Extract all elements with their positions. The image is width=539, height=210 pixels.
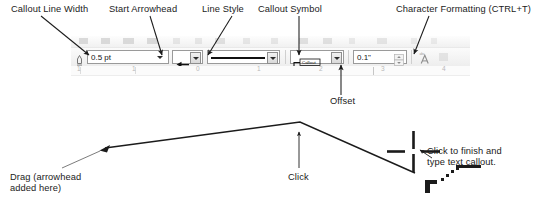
ruler-tick — [373, 67, 374, 76]
label-offset: Offset — [330, 96, 355, 107]
callout-leader-line — [105, 122, 415, 173]
callout-properties-bar: 0.5 pt — [71, 47, 470, 68]
line-style-combo[interactable] — [207, 50, 280, 64]
label-click-to-finish: Click to finish and type text callout. — [427, 146, 502, 167]
toolbar-ghost-icon — [299, 38, 308, 44]
callout-line-width-value: 0.5 pt — [91, 52, 111, 64]
callout-symbol-combo[interactable]: Callout — [290, 50, 344, 64]
ruler-label: 3 — [381, 66, 385, 72]
toolbar-ghost-icon — [271, 38, 278, 44]
toolbar-separator — [348, 50, 349, 64]
label-character-formatting: Character Formatting (CTRL+T) — [396, 4, 531, 15]
toolbar-ghost-icon — [349, 38, 355, 44]
ruler-label: 1 — [257, 66, 261, 72]
label-start-arrowhead: Start Arrowhead — [109, 4, 177, 15]
toolbar-ghost-icon — [173, 38, 180, 44]
spinner-icon[interactable] — [394, 52, 404, 64]
left-arrowhead-icon — [176, 54, 189, 61]
toolbar-ghost-icon — [377, 38, 387, 44]
toolbar-separator — [285, 50, 286, 64]
pen-width-icon[interactable] — [76, 52, 83, 63]
toolbar-ghost-icon — [123, 38, 134, 44]
label-click: Click — [288, 172, 309, 183]
horizontal-ruler[interactable]: 1 1 0 1 2 3 4 — [71, 66, 470, 76]
toolbar-ghost-icon — [215, 38, 225, 44]
start-arrowhead-dropdown[interactable] — [190, 52, 201, 64]
callout-toolbar: 0.5 pt — [71, 36, 470, 75]
ruler-label: 1 — [77, 66, 81, 72]
callout-symbol-icon: Callout — [293, 53, 331, 62]
chevron-down-icon — [334, 57, 340, 60]
svg-text:Callout: Callout — [302, 60, 316, 65]
offset-field[interactable]: 0.1" — [353, 50, 407, 64]
chevron-down-icon[interactable] — [157, 56, 163, 59]
ruler-label: 2 — [319, 66, 323, 72]
toolbar-ghost-icon — [147, 38, 158, 44]
solid-line-icon — [211, 57, 265, 59]
toolbar-ghost-icon — [195, 38, 202, 44]
leader-drag — [62, 151, 100, 168]
toolbar-ghost-icon — [101, 38, 110, 44]
chevron-down-icon — [270, 57, 276, 60]
chevron-down-icon — [193, 57, 199, 60]
callout-cursor-icon — [425, 165, 481, 193]
character-formatting-icon[interactable]: abc — [418, 51, 432, 64]
screenshot-root: 0.5 pt — [0, 0, 539, 210]
callout-symbol-dropdown[interactable] — [331, 52, 342, 64]
ruler-label: 1 — [132, 66, 136, 72]
toolbar-ghost-icon — [243, 38, 250, 44]
label-callout-line-width: Callout Line Width — [11, 4, 88, 15]
callout-start-arrowhead — [100, 145, 111, 153]
label-callout-symbol: Callout Symbol — [258, 4, 322, 15]
start-arrowhead-combo[interactable] — [172, 50, 203, 64]
label-drag: Drag (arrowhead added here) — [10, 172, 81, 193]
line-style-dropdown[interactable] — [267, 52, 278, 64]
toolbar-ghost-icon — [323, 38, 332, 44]
toolbar-separator — [411, 50, 412, 64]
callout-line-width-combo[interactable]: 0.5 pt — [87, 50, 169, 64]
toolbar-ghost-icon — [431, 38, 437, 44]
label-line-style: Line Style — [202, 4, 244, 15]
offset-value: 0.1" — [357, 52, 371, 64]
ruler-label: 4 — [442, 66, 446, 72]
ruler-label: 0 — [196, 66, 200, 72]
toolbar-ghost-button[interactable] — [439, 53, 448, 61]
toolbar-ghost-icon — [79, 38, 88, 44]
toolbar-ghost-icon — [411, 38, 417, 44]
